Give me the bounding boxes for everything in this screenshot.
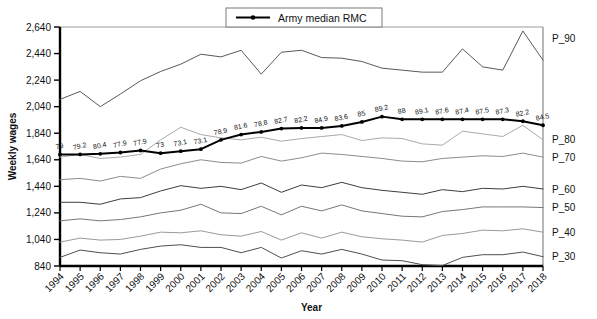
x-tick-label: 2010 bbox=[364, 270, 388, 294]
data-point-label: 73.1 bbox=[193, 136, 208, 146]
x-tick-label: 1995 bbox=[63, 270, 87, 294]
data-point bbox=[400, 117, 404, 121]
data-point-label: 84.9 bbox=[314, 115, 329, 125]
x-tick-label: 1994 bbox=[42, 270, 66, 294]
data-point-label: 79 bbox=[55, 142, 64, 150]
data-point-label: 78.8 bbox=[253, 119, 268, 129]
x-tick-label: 2002 bbox=[203, 270, 227, 294]
y-tick-label: 2,040 bbox=[26, 101, 51, 112]
x-axis-title: Year bbox=[301, 302, 322, 313]
x-tick-label: 1998 bbox=[123, 270, 147, 294]
x-tick-label: 2001 bbox=[183, 270, 207, 294]
x-tick-label: 2016 bbox=[485, 270, 509, 294]
series-end-label-p_90: P_90 bbox=[552, 33, 576, 44]
x-tick-label: 1997 bbox=[103, 270, 127, 294]
data-point-label: 82.2 bbox=[515, 108, 530, 118]
data-point-label: 87.4 bbox=[455, 106, 470, 116]
x-tick-label: 2003 bbox=[224, 270, 248, 294]
series-end-label-p_40: P_40 bbox=[552, 227, 576, 238]
x-tick-label: 2004 bbox=[244, 270, 268, 294]
data-point-label: 82.7 bbox=[273, 115, 288, 125]
y-tick-label: 1,440 bbox=[26, 181, 51, 192]
data-point bbox=[219, 138, 223, 142]
x-tick-label: 2008 bbox=[324, 270, 348, 294]
x-tick-label: 1996 bbox=[83, 270, 107, 294]
data-point bbox=[521, 119, 525, 123]
y-tick-label: 2,640 bbox=[26, 22, 51, 33]
y-tick-label: 2,440 bbox=[26, 48, 51, 59]
data-point-label: 87.3 bbox=[495, 106, 510, 116]
data-point bbox=[199, 147, 203, 151]
series-line-p-40 bbox=[60, 229, 543, 242]
data-point-label: 79.2 bbox=[72, 141, 87, 151]
series-end-label-p_70: P_70 bbox=[552, 152, 576, 163]
data-point bbox=[179, 149, 183, 153]
y-tick-label: 840 bbox=[34, 261, 51, 272]
x-tick-label: 1999 bbox=[143, 270, 167, 294]
data-point bbox=[501, 117, 505, 121]
legend-label-army-median-rmc: Army median RMC bbox=[278, 12, 367, 24]
series-line-p-60 bbox=[60, 182, 543, 204]
data-point-label: 84.5 bbox=[535, 112, 550, 122]
data-point-label: 87.5 bbox=[475, 106, 490, 116]
y-tick-label: 1,640 bbox=[26, 154, 51, 165]
series-line-p-70 bbox=[60, 153, 543, 181]
data-point-label: 81.6 bbox=[233, 121, 248, 131]
y-tick-label: 1,240 bbox=[26, 207, 51, 218]
y-axis-title: Weekly wages bbox=[7, 112, 18, 180]
x-tick-label: 2006 bbox=[284, 270, 308, 294]
data-point bbox=[340, 124, 344, 128]
y-tick-label: 2,240 bbox=[26, 75, 51, 86]
series-line-p-50 bbox=[60, 204, 543, 221]
data-point-label: 77.9 bbox=[133, 137, 148, 147]
x-tick-label: 2007 bbox=[304, 270, 328, 294]
data-point bbox=[58, 153, 62, 157]
data-point-label: 85 bbox=[357, 109, 366, 117]
x-tick-label: 2011 bbox=[385, 270, 408, 293]
data-point bbox=[461, 117, 465, 121]
x-tick-label: 2012 bbox=[405, 270, 429, 294]
series-line-p-90 bbox=[60, 31, 543, 107]
data-point-label: 77.9 bbox=[112, 139, 127, 149]
legend-marker-icon bbox=[251, 15, 256, 20]
data-point-label: 78.9 bbox=[213, 127, 228, 137]
data-point bbox=[159, 151, 163, 155]
data-point-label: 89.1 bbox=[414, 106, 429, 116]
data-point bbox=[481, 117, 485, 121]
series-end-label-p_80: P_80 bbox=[552, 134, 576, 145]
data-point-label: 82.2 bbox=[294, 115, 309, 125]
data-point bbox=[118, 151, 122, 155]
x-tick-label: 2014 bbox=[445, 270, 469, 294]
chart-container: 8401,0401,2401,4401,6401,8402,0402,2402,… bbox=[0, 0, 597, 319]
data-point-label: 83.6 bbox=[334, 113, 349, 123]
data-point bbox=[98, 152, 102, 156]
data-point bbox=[78, 153, 82, 157]
series-end-label-p_60: P_60 bbox=[552, 184, 576, 195]
data-point bbox=[440, 117, 444, 121]
data-point bbox=[420, 117, 424, 121]
data-point-label: 88 bbox=[397, 107, 406, 115]
y-tick-label: 1,840 bbox=[26, 128, 51, 139]
x-tick-label: 2013 bbox=[425, 270, 449, 294]
x-tick-label: 2017 bbox=[505, 270, 529, 294]
data-point-label: 73.1 bbox=[173, 138, 188, 148]
data-point-label: 80.4 bbox=[92, 140, 107, 150]
series-end-label-p_30: P_30 bbox=[552, 251, 576, 262]
data-point-label: 73 bbox=[156, 140, 165, 148]
data-point bbox=[320, 126, 324, 130]
data-point bbox=[541, 123, 545, 127]
series-end-label-p_50: P_50 bbox=[552, 202, 576, 213]
data-point bbox=[259, 130, 263, 134]
data-point bbox=[139, 149, 143, 153]
series-line-p-30 bbox=[60, 245, 543, 266]
data-point bbox=[300, 126, 304, 130]
data-point bbox=[279, 127, 283, 131]
x-tick-label: 2018 bbox=[525, 270, 549, 294]
x-tick-label: 2009 bbox=[344, 270, 368, 294]
data-point bbox=[360, 120, 364, 124]
weekly-wages-percentile-line-chart: 8401,0401,2401,4401,6401,8402,0402,2402,… bbox=[0, 0, 597, 319]
x-tick-label: 2005 bbox=[264, 270, 288, 294]
x-tick-label: 2000 bbox=[163, 270, 187, 294]
data-point bbox=[380, 115, 384, 119]
data-point bbox=[239, 133, 243, 137]
